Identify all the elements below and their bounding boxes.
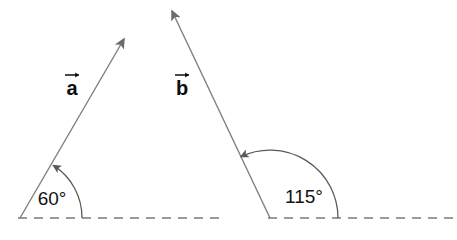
vector-b-label: b — [176, 77, 188, 99]
angle-label-60: 60° — [38, 188, 67, 209]
vector-b-label-group: b — [175, 73, 189, 99]
angle-label-115: 115° — [285, 186, 323, 207]
figure-right-vector-b: 115° b — [172, 11, 457, 218]
vector-angle-figure: 60° a 115° b — [0, 0, 457, 240]
vector-a-label-group: a — [65, 73, 79, 99]
vector-diagram-canvas: 60° a 115° b — [0, 0, 457, 240]
vector-b-shaft — [172, 11, 270, 218]
vector-a-label: a — [66, 77, 78, 99]
vector-a-shaft — [20, 39, 124, 218]
figure-left-vector-a: 60° a — [18, 39, 225, 218]
angle-arc-115 — [241, 150, 338, 218]
